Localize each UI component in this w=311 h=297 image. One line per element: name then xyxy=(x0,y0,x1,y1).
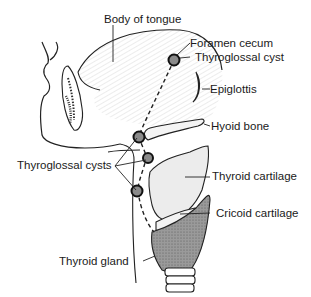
cyst-hyoid xyxy=(143,153,153,163)
label-epiglottis: Epiglottis xyxy=(210,84,257,96)
label-thyroid-cartilage: Thyroid cartilage xyxy=(212,171,297,183)
label-thyroglossal-cyst: Thyroglossal cyst xyxy=(195,52,284,64)
label-hyoid-bone: Hyoid bone xyxy=(211,121,269,133)
label-foramen-cecum: Foramen cecum xyxy=(190,38,273,50)
label-body-of-tongue: Body of tongue xyxy=(104,14,181,26)
label-cricoid-cartilage: Cricoid cartilage xyxy=(216,208,298,220)
label-thyroid-gland: Thyroid gland xyxy=(59,256,129,268)
thyroglossal-diagram: Body of tongue Foramen cecum Thyroglossa… xyxy=(0,0,311,297)
trachea xyxy=(165,268,195,292)
label-thyroglossal-cysts: Thyroglossal cysts xyxy=(17,160,112,172)
cyst-foramen-cecum xyxy=(169,55,180,66)
